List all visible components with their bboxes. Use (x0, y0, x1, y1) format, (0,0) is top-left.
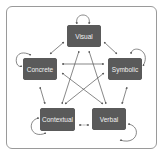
concrete-verbal-arrow (62, 73, 103, 104)
visual-symbolic-arrow (104, 42, 117, 54)
node-visual-label: Visual (75, 33, 93, 40)
node-visual: Visual (67, 25, 101, 47)
node-concrete-label: Concrete (27, 66, 53, 73)
node-concrete: Concrete (23, 58, 57, 80)
symbolic-contextual-arrow (65, 73, 104, 104)
node-verbal-label: Verbal (100, 116, 118, 123)
visual-contextual-arrow (62, 51, 79, 104)
visual-concrete-arrow (50, 42, 64, 54)
node-contextual: Contextual (40, 108, 75, 131)
concrete-contextual-arrow (40, 87, 45, 104)
node-symbolic-label: Symbolic (112, 66, 138, 73)
node-verbal: Verbal (92, 108, 126, 130)
symbolic-verbal-arrow (122, 87, 127, 104)
visual-self-loop-arrow (77, 15, 90, 24)
node-symbolic: Symbolic (108, 58, 142, 80)
visual-verbal-arrow (89, 51, 106, 104)
node-contextual-label: Contextual (42, 116, 73, 123)
